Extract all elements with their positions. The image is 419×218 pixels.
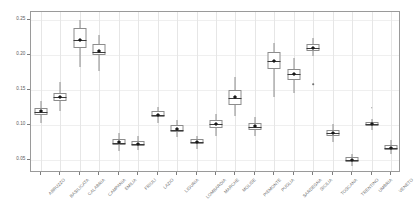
x-tick-mark — [59, 172, 60, 175]
whisker-upper — [235, 77, 236, 90]
x-tick-mark — [118, 172, 119, 175]
box-plot-item[interactable] — [206, 12, 225, 171]
whisker-lower — [79, 48, 80, 67]
x-tick-mark — [254, 172, 255, 175]
whisker-upper — [99, 35, 100, 44]
x-tick-label: PUGLIA — [281, 178, 296, 193]
whisker-upper — [60, 82, 61, 94]
whisker-lower — [274, 69, 275, 97]
whisker-lower — [293, 80, 294, 93]
whisker-lower — [40, 115, 41, 123]
whisker-lower — [371, 126, 372, 130]
x-tick-mark — [79, 172, 80, 175]
y-tick-mark — [27, 54, 30, 55]
x-tick-mark — [40, 172, 41, 175]
box-plot-item[interactable] — [226, 12, 245, 171]
whisker-lower — [215, 128, 216, 136]
box-plot-item[interactable] — [70, 12, 89, 171]
x-tick-label: VENETO — [398, 178, 414, 194]
box-plot-item[interactable] — [265, 12, 284, 171]
box-plot-item[interactable] — [128, 12, 147, 171]
box-plot-item[interactable] — [245, 12, 264, 171]
box-plot-item[interactable] — [89, 12, 108, 171]
x-tick-mark — [98, 172, 99, 175]
box-plot-item[interactable] — [167, 12, 186, 171]
whisker-lower — [254, 130, 255, 136]
x-tick-mark — [273, 172, 274, 175]
x-tick-label: MOLISE — [242, 178, 257, 193]
x-tick-label: UMBRIA — [378, 178, 393, 193]
box-plot-item[interactable] — [50, 12, 69, 171]
whisker-upper — [79, 20, 80, 28]
y-tick-label: 0.25 — [16, 17, 25, 22]
box-plot-item[interactable] — [31, 12, 50, 171]
x-tick-label: TRENTINO — [361, 178, 380, 197]
box-plot-item[interactable] — [343, 12, 362, 171]
box-plot-item[interactable] — [148, 12, 167, 171]
plot-area — [30, 11, 400, 172]
outlier-point — [371, 107, 373, 109]
x-tick-mark — [332, 172, 333, 175]
x-tick-label: TOSCANA — [341, 178, 359, 196]
whisker-upper — [293, 58, 294, 69]
x-tick-mark — [371, 172, 372, 175]
mean-marker — [194, 139, 198, 143]
whisker-lower — [157, 117, 158, 123]
y-tick-label: 0.15 — [16, 87, 25, 92]
whisker-lower — [118, 145, 119, 151]
x-tick-mark — [390, 172, 391, 175]
y-tick-mark — [27, 124, 30, 125]
whisker-upper — [274, 43, 275, 52]
whisker-lower — [352, 162, 353, 166]
whisker-lower — [177, 132, 178, 137]
x-tick-mark — [137, 172, 138, 175]
outlier-point — [313, 84, 315, 86]
whisker-lower — [391, 150, 392, 154]
box-plot-item[interactable] — [109, 12, 128, 171]
y-tick-mark — [27, 159, 30, 160]
x-tick-mark — [293, 172, 294, 175]
y-tick-label: 0.05 — [16, 157, 25, 162]
box-plot-item[interactable] — [382, 12, 401, 171]
whisker-lower — [60, 101, 61, 111]
whisker-lower — [332, 136, 333, 142]
box-plot-item[interactable] — [304, 12, 323, 171]
x-tick-label: BASILICATA — [69, 178, 90, 199]
y-tick-label: 0.20 — [16, 52, 25, 57]
box-plot-item[interactable] — [323, 12, 342, 171]
x-tick-label: LAZIO — [163, 178, 175, 190]
x-tick-mark — [176, 172, 177, 175]
y-tick-mark — [27, 89, 30, 90]
x-tick-mark — [312, 172, 313, 175]
x-tick-label: FRIULI — [144, 178, 157, 191]
x-tick-mark — [215, 172, 216, 175]
y-tick-label: 0.10 — [16, 122, 25, 127]
whisker-lower — [235, 105, 236, 116]
whisker-lower — [99, 55, 100, 70]
whisker-lower — [313, 51, 314, 56]
boxplot-figure: 0.050.100.150.200.25ABRUZZOBASILICATACAL… — [0, 0, 419, 218]
x-tick-label: ABRUZZO — [48, 178, 66, 196]
box-plot-item[interactable] — [284, 12, 303, 171]
x-tick-mark — [157, 172, 158, 175]
whisker-upper — [118, 133, 119, 140]
x-tick-mark — [351, 172, 352, 175]
y-tick-mark — [27, 19, 30, 20]
x-tick-mark — [234, 172, 235, 175]
y-axis — [0, 0, 30, 218]
box-plot-item[interactable] — [187, 12, 206, 171]
whisker-lower — [196, 144, 197, 149]
box-plot-item[interactable] — [362, 12, 381, 171]
whisker-upper — [215, 114, 216, 121]
x-tick-label: LIGURIA — [184, 178, 200, 194]
x-tick-mark — [196, 172, 197, 175]
